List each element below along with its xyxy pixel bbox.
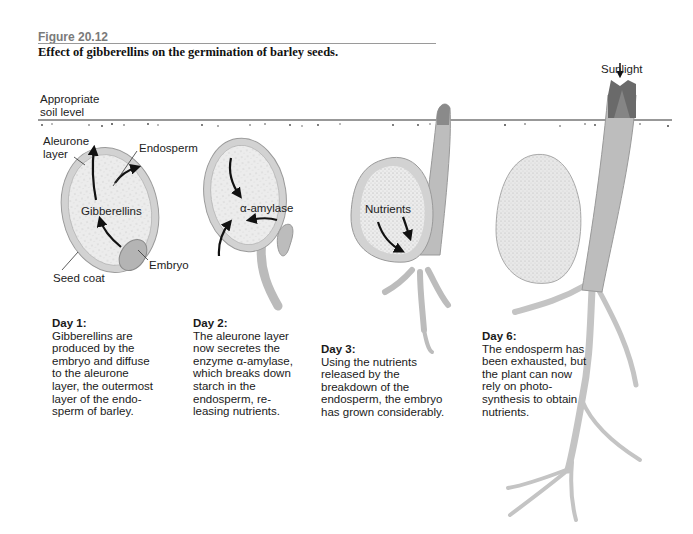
caption-day-3: Day 3: Using the nutrients released by t… [321, 343, 444, 419]
soil-line [38, 120, 672, 127]
caption-day-2: Day 2: The aleurone layer now secretes t… [193, 317, 293, 418]
caption-day-1-heading: Day 1: [52, 317, 153, 330]
label-gibberellins: Gibberellins [81, 205, 142, 218]
caption-day-3-text: Using the nutrients released by the brea… [321, 356, 444, 419]
label-aleurone-layer: Aleurone layer [43, 135, 89, 160]
radicle-shape [261, 240, 278, 306]
label-seed-coat: Seed coat [53, 272, 105, 285]
caption-day-2-text: The aleurone layer now secretes the enzy… [193, 330, 293, 418]
caption-day-6-heading: Day 6: [482, 330, 586, 343]
seed-day-2 [196, 133, 293, 306]
plant-day-6 [496, 63, 640, 520]
label-soil-level: Appropriate soil level [40, 93, 99, 118]
label-nutrients: Nutrients [365, 203, 411, 216]
label-sunlight: Sunlight [601, 63, 643, 76]
label-alpha-amylase: α-amylase [240, 202, 293, 215]
caption-day-3-heading: Day 3: [321, 343, 444, 356]
caption-day-1: Day 1: Gibberellins are produced by the … [52, 317, 153, 418]
caption-day-1-text: Gibberellins are produced by the embryo … [52, 330, 153, 418]
caption-day-2-heading: Day 2: [193, 317, 293, 330]
caption-day-6-text: The endosperm has been exhausted, but th… [482, 343, 586, 419]
seedling-day-3 [351, 104, 450, 352]
germination-illustration [0, 0, 693, 534]
label-embryo: Embryo [149, 259, 189, 272]
caption-day-6: Day 6: The endosperm has been exhausted,… [482, 330, 586, 418]
label-endosperm: Endosperm [139, 142, 198, 155]
